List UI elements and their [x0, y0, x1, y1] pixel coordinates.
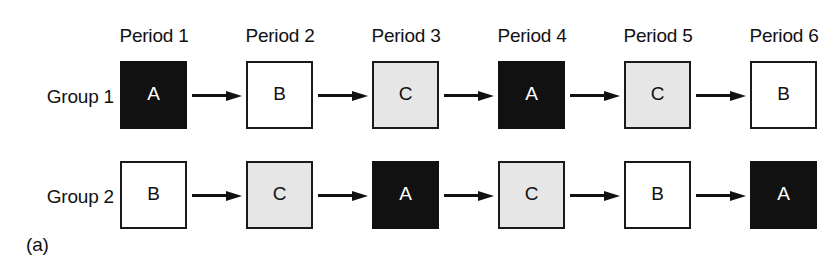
treatment-letter: C — [273, 184, 287, 203]
sequence-row-group-2: B C A C B — [0, 161, 838, 231]
treatment-letter: B — [777, 84, 790, 103]
period-header-1: Period 1 — [91, 24, 217, 48]
treatment-box[interactable]: B — [246, 61, 313, 129]
sequence-cell: C — [372, 61, 498, 131]
treatment-box[interactable]: C — [624, 61, 691, 129]
period-header-6: Period 6 — [721, 24, 838, 48]
treatment-box[interactable]: C — [246, 161, 313, 229]
sequence-cell: C — [624, 61, 750, 131]
treatment-letter: A — [147, 84, 160, 103]
arrow-right-icon — [444, 191, 494, 200]
arrow-right-icon — [192, 91, 242, 100]
period-header-3: Period 3 — [343, 24, 469, 48]
arrow-right-icon — [696, 91, 746, 100]
treatment-letter: A — [525, 84, 538, 103]
treatment-letter: C — [651, 84, 665, 103]
treatment-box[interactable]: A — [120, 61, 187, 129]
sequence-cell: B — [750, 61, 838, 131]
treatment-box[interactable]: B — [750, 61, 817, 129]
treatment-box[interactable]: C — [498, 161, 565, 229]
sequence-cell: A — [498, 61, 624, 131]
period-header-4: Period 4 — [469, 24, 595, 48]
treatment-box[interactable]: A — [498, 61, 565, 129]
treatment-letter: C — [525, 184, 539, 203]
sequence-row-group-1: A B C A C — [0, 61, 838, 131]
arrow-right-icon — [570, 191, 620, 200]
sequence-cell: A — [120, 61, 246, 131]
treatment-box[interactable]: B — [120, 161, 187, 229]
sequence-cell: B — [624, 161, 750, 231]
treatment-box[interactable]: B — [624, 161, 691, 229]
sequence-cell: C — [498, 161, 624, 231]
arrow-right-icon — [192, 191, 242, 200]
arrow-right-icon — [318, 191, 368, 200]
treatment-letter: A — [777, 184, 790, 203]
period-header-5: Period 5 — [595, 24, 721, 48]
treatment-letter: B — [273, 84, 286, 103]
sequence-cell: A — [372, 161, 498, 231]
arrow-right-icon — [318, 91, 368, 100]
treatment-box[interactable]: A — [372, 161, 439, 229]
treatment-letter: C — [399, 84, 413, 103]
period-header-2: Period 2 — [217, 24, 343, 48]
treatment-letter: A — [399, 184, 412, 203]
sequence-cell: B — [246, 61, 372, 131]
arrow-right-icon — [444, 91, 494, 100]
subfigure-label: (a) — [26, 234, 49, 256]
sequence-cell: C — [246, 161, 372, 231]
treatment-box[interactable]: C — [372, 61, 439, 129]
treatment-letter: B — [147, 184, 160, 203]
sequence-cell: B — [120, 161, 246, 231]
treatment-letter: B — [651, 184, 664, 203]
crossover-design-diagram: Period 1 Period 2 Period 3 Period 4 Peri… — [0, 0, 838, 274]
arrow-right-icon — [570, 91, 620, 100]
treatment-box[interactable]: A — [750, 161, 817, 229]
sequence-cell: A — [750, 161, 838, 231]
arrow-right-icon — [696, 191, 746, 200]
